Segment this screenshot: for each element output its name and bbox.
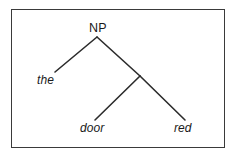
tree-node-label-root: NP — [89, 22, 107, 35]
figure-root: NP the door red — [0, 0, 236, 161]
tree-terminal-label-red: red — [174, 122, 192, 134]
tree-terminal-label-the: the — [37, 74, 54, 86]
tree-terminal-label-door: door — [80, 122, 104, 134]
